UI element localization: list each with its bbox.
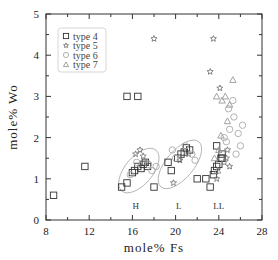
circle-marker-icon [233,151,239,157]
series-type-4 [50,93,225,198]
series-type-7 [211,77,236,173]
legend-entry-label: type 7 [73,59,98,70]
triangle-marker-icon [226,101,232,107]
star-marker-icon [214,176,220,182]
star-marker-icon [137,147,143,153]
star-marker-icon [227,163,233,169]
y-tick-label: 4 [34,49,40,61]
triangle-marker-icon [213,93,219,99]
star-marker-icon [170,180,176,186]
triangle-marker-icon [211,155,217,161]
square-marker-icon [82,163,88,169]
circle-marker-icon [172,155,178,161]
cluster-ellipse [111,141,167,200]
square-marker-icon [168,167,174,173]
circle-marker-icon [192,157,198,163]
y-tick-label: 5 [34,8,40,20]
circle-marker-icon [134,159,140,165]
circle-marker-icon [237,143,243,149]
circle-marker-icon [235,130,241,136]
group-label: L [176,201,182,211]
square-marker-icon [216,161,222,167]
square-marker-icon [194,176,200,182]
scatter-chart: 81216202428 012345 HLLL type 4type 5type… [0,0,278,260]
y-tick-label: 0 [34,214,40,226]
x-tick-label: 20 [170,225,182,237]
y-axis-title: mole% Wo [5,84,20,150]
star-marker-icon [207,69,213,75]
triangle-marker-icon [224,118,230,124]
ellipses-layer [111,133,209,200]
square-marker-icon [207,184,213,190]
x-tick-label: 12 [84,225,95,237]
x-axis-title: mole% Fs [124,240,184,255]
square-marker-icon [203,176,209,182]
group-label: LL [213,201,224,211]
triangle-marker-icon [230,77,236,83]
cluster-ellipse [150,133,209,196]
y-tick-label: 3 [34,90,40,102]
circle-marker-icon [231,114,237,120]
square-marker-icon [124,93,130,99]
x-tick-label: 8 [43,225,49,237]
circle-marker-icon [189,151,195,157]
group-labels: HLLL [132,201,224,211]
circle-marker-icon [226,126,232,132]
x-tick-label: 16 [127,225,139,237]
square-marker-icon [213,143,219,149]
x-tick-label: 28 [257,225,269,237]
circle-marker-icon [239,122,245,128]
x-tick-label: 24 [213,225,225,237]
star-marker-icon [210,36,216,42]
square-marker-icon [151,184,157,190]
star-marker-icon [151,36,157,42]
square-marker-icon [50,192,56,198]
star-marker-icon [217,85,223,91]
y-tick-label: 1 [34,173,40,185]
circle-marker-icon [127,171,133,177]
legend: type 4type 5type 6type 7 [58,28,106,72]
y-tick-label: 2 [34,132,40,144]
triangle-marker-icon [222,93,228,99]
square-marker-icon [135,93,141,99]
group-label: H [132,201,139,211]
star-marker-icon [140,153,146,159]
